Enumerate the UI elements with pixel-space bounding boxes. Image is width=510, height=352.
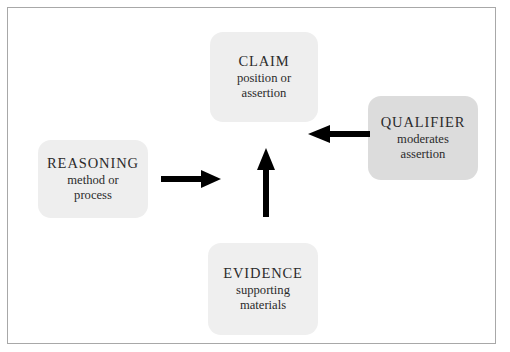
node-qualifier: QUALIFIER moderates assertion	[368, 96, 478, 180]
node-evidence: EVIDENCE supporting materials	[208, 243, 318, 335]
node-evidence-title: EVIDENCE	[223, 265, 303, 282]
node-reasoning-subtitle-line2: process	[67, 188, 118, 203]
node-qualifier-title: QUALIFIER	[381, 114, 466, 131]
node-qualifier-subtitle-line2: assertion	[397, 147, 449, 162]
node-qualifier-subtitle-line1: moderates	[397, 132, 449, 147]
node-claim-title: CLAIM	[238, 53, 289, 70]
node-reasoning-title: REASONING	[47, 155, 139, 172]
node-evidence-subtitle-line2: materials	[236, 298, 290, 313]
node-reasoning: REASONING method or process	[38, 140, 148, 218]
node-reasoning-subtitle: method or process	[67, 173, 118, 204]
node-claim-subtitle-line2: assertion	[237, 86, 291, 101]
node-evidence-subtitle: supporting materials	[236, 283, 290, 314]
arrow-right-icon	[161, 169, 221, 189]
arrow-up-icon	[256, 148, 276, 217]
node-qualifier-subtitle: moderates assertion	[397, 132, 449, 163]
arrow-left-icon	[308, 124, 370, 144]
node-claim: CLAIM position or assertion	[210, 32, 318, 122]
diagram-canvas: CLAIM position or assertion QUALIFIER mo…	[0, 0, 510, 352]
node-claim-subtitle-line1: position or	[237, 71, 291, 86]
node-evidence-subtitle-line1: supporting	[236, 283, 290, 298]
node-claim-subtitle: position or assertion	[237, 71, 291, 102]
node-reasoning-subtitle-line1: method or	[67, 173, 118, 188]
